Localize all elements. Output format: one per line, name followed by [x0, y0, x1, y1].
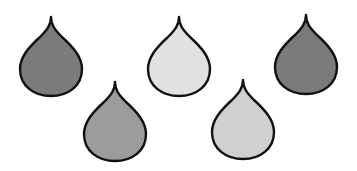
water-drop-icon — [82, 81, 148, 163]
water-drop-icon — [210, 79, 276, 161]
water-drop-medium-gray — [82, 81, 148, 163]
water-drop-light-gray — [146, 16, 212, 98]
water-drop-light-medium-gray — [210, 79, 276, 161]
water-drop-icon — [18, 16, 84, 98]
water-drop-icon — [273, 14, 339, 96]
water-drop-dark-gray — [273, 14, 339, 96]
water-drop-dark-gray — [18, 16, 84, 98]
water-drop-icon — [146, 16, 212, 98]
drops-canvas — [0, 0, 357, 171]
